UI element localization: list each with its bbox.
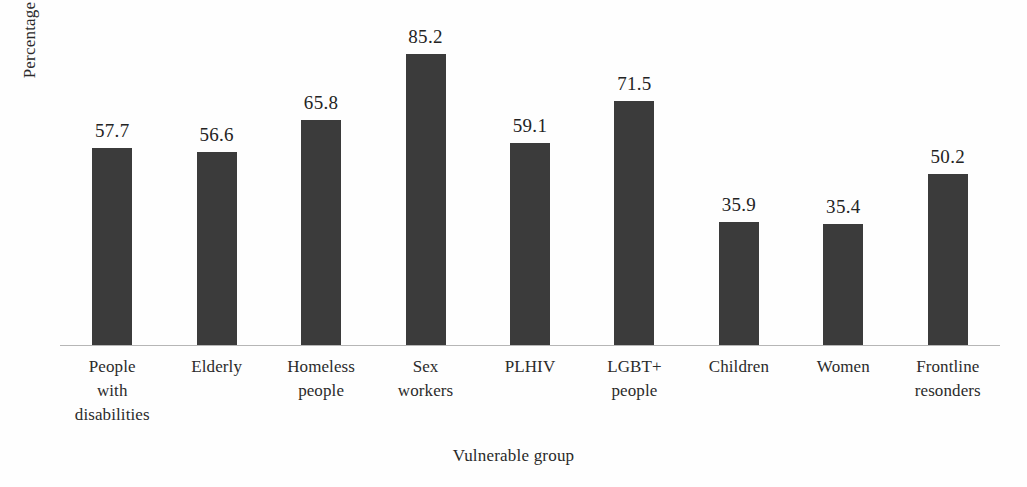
bar-slot: 65.8 — [269, 0, 373, 345]
x-tick-label-line: with — [60, 379, 164, 403]
x-tick-label-line: disabilities — [60, 403, 164, 427]
bar — [301, 120, 341, 345]
x-tick-label-line: Homeless — [269, 355, 373, 379]
x-tick-label-line: workers — [373, 379, 477, 403]
bar-value-label: 85.2 — [408, 26, 442, 48]
bar-slot: 50.2 — [896, 0, 1000, 345]
bar-value-label: 71.5 — [617, 73, 651, 95]
bar-value-label: 50.2 — [931, 146, 965, 168]
x-tick-label: PLHIV — [478, 355, 582, 379]
x-tick-label: Children — [687, 355, 791, 379]
bar — [406, 54, 446, 345]
bar — [197, 152, 237, 345]
bar-value-label: 35.4 — [826, 196, 860, 218]
bar-value-label: 59.1 — [513, 115, 547, 137]
x-tick-label: Peoplewithdisabilities — [60, 355, 164, 427]
x-tick-label-line: PLHIV — [478, 355, 582, 379]
bar — [92, 148, 132, 345]
x-axis-tick-labels: PeoplewithdisabilitiesElderlyHomelesspeo… — [60, 355, 1000, 435]
x-axis-title: Vulnerable group — [0, 446, 1027, 466]
x-tick-label-line: Children — [687, 355, 791, 379]
bar-value-label: 65.8 — [304, 92, 338, 114]
bar-slot: 59.1 — [478, 0, 582, 345]
y-axis-title: Percentage — [20, 0, 50, 150]
bar-slot: 35.4 — [791, 0, 895, 345]
bar-slot: 71.5 — [582, 0, 686, 345]
bar-value-label: 35.9 — [722, 194, 756, 216]
x-tick-label: Frontlineresonders — [896, 355, 1000, 403]
x-tick-label-line: Sex — [373, 355, 477, 379]
bar — [928, 174, 968, 345]
bar-slot: 35.9 — [687, 0, 791, 345]
bar-value-label: 57.7 — [95, 120, 129, 142]
x-tick-label: Homelesspeople — [269, 355, 373, 403]
bar — [823, 224, 863, 345]
bar-slot: 56.6 — [164, 0, 268, 345]
bar-chart-figure: Percentage 57.756.665.885.259.171.535.93… — [0, 0, 1027, 487]
x-axis-baseline — [60, 345, 1000, 346]
x-tick-label-line: resonders — [896, 379, 1000, 403]
bar — [510, 143, 550, 345]
x-tick-label: Sexworkers — [373, 355, 477, 403]
bar — [719, 222, 759, 345]
bar — [614, 101, 654, 345]
x-tick-label: LGBT+people — [582, 355, 686, 403]
x-tick-label-line: People — [60, 355, 164, 379]
x-tick-label: Elderly — [164, 355, 268, 379]
bar-slot: 85.2 — [373, 0, 477, 345]
x-tick-label-line: people — [269, 379, 373, 403]
x-tick-label-line: Elderly — [164, 355, 268, 379]
plot-area: 57.756.665.885.259.171.535.935.450.2 — [60, 0, 1000, 346]
x-tick-label-line: Frontline — [896, 355, 1000, 379]
x-tick-label-line: Women — [791, 355, 895, 379]
x-tick-label-line: people — [582, 379, 686, 403]
bar-value-label: 56.6 — [199, 124, 233, 146]
x-tick-label: Women — [791, 355, 895, 379]
bar-slot: 57.7 — [60, 0, 164, 345]
x-tick-label-line: LGBT+ — [582, 355, 686, 379]
